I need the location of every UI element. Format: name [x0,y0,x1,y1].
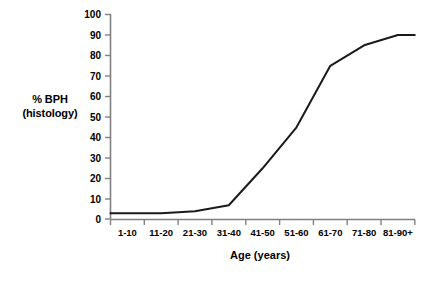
x-tick-label-51-60: 51-60 [284,227,308,238]
y-axis: 100 90 80 70 60 50 40 30 20 10 0 [84,9,110,225]
x-tick-label-41-50: 41-50 [251,227,275,238]
line-chart-plot: 100 90 80 70 60 50 40 30 20 10 0 [0,0,434,284]
y-axis-ticks [105,15,111,220]
x-axis: 1-10 11-20 21-30 31-40 41-50 51-60 61-70… [111,220,416,239]
x-tick-label-81-90+: 81-90+ [383,227,413,238]
y-tick-label-50: 50 [90,112,102,123]
x-tick-label-11-20: 11-20 [149,227,173,238]
y-tick-label-40: 40 [90,132,102,143]
y-tick-label-0: 0 [95,214,101,225]
y-tick-label-70: 70 [90,71,102,82]
data-series-line [111,35,415,213]
y-tick-label-60: 60 [90,91,102,102]
x-tick-label-31-40: 31-40 [217,227,241,238]
y-tick-label-10: 10 [90,194,102,205]
x-axis-ticks [111,220,415,226]
x-tick-label-61-70: 61-70 [318,227,342,238]
x-axis-title: Age (years) [105,249,415,261]
caption-fragment [0,272,434,284]
y-tick-label-100: 100 [84,9,101,20]
y-tick-label-80: 80 [90,50,102,61]
x-tick-label-21-30: 21-30 [183,227,207,238]
x-tick-label-1-10: 1-10 [118,227,137,238]
y-tick-label-20: 20 [90,173,102,184]
y-tick-label-30: 30 [90,153,102,164]
chart-figure: % BPH (histology) 100 90 80 70 60 [0,0,434,284]
x-tick-label-71-80: 71-80 [352,227,376,238]
y-tick-label-90: 90 [90,30,102,41]
